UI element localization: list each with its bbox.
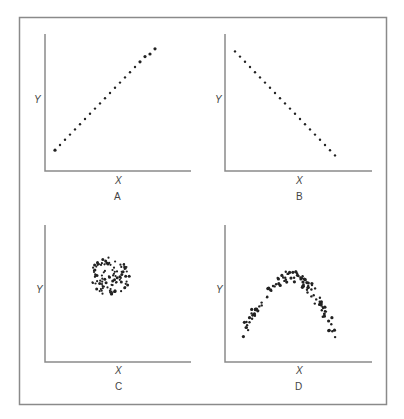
data-point	[325, 310, 327, 312]
data-point	[327, 319, 330, 322]
data-point	[301, 286, 304, 289]
data-point	[103, 271, 105, 273]
data-point	[93, 263, 96, 266]
data-point	[258, 305, 260, 307]
panel-c-ylabel: Y	[36, 284, 44, 295]
data-point	[294, 113, 296, 115]
data-point	[330, 323, 332, 325]
data-point	[107, 257, 109, 259]
scatterplot-figure: Y X A Y X B Y X C Y X D	[0, 0, 404, 419]
data-point	[134, 66, 136, 68]
data-point	[328, 329, 331, 332]
data-point	[89, 113, 91, 115]
panel-a-axes	[45, 34, 191, 171]
data-point	[302, 283, 304, 285]
panel-c-points	[91, 257, 130, 296]
data-point	[111, 269, 113, 271]
data-point	[124, 275, 127, 278]
figure-frame	[20, 18, 387, 405]
data-point	[120, 280, 123, 283]
data-point	[247, 329, 249, 331]
data-point	[323, 313, 325, 315]
data-point	[101, 278, 103, 280]
data-point	[101, 281, 103, 283]
data-point	[92, 267, 94, 269]
data-point	[334, 154, 336, 156]
panel-d-ylabel: Y	[216, 284, 224, 295]
data-point	[106, 286, 108, 288]
data-point	[291, 271, 294, 274]
data-point	[94, 276, 96, 278]
panel-b-axes	[225, 34, 372, 171]
data-point	[98, 263, 100, 265]
panel-c: Y X C	[36, 225, 191, 392]
data-point	[94, 107, 96, 109]
data-point	[329, 149, 331, 151]
data-point	[91, 281, 93, 283]
data-point	[105, 281, 108, 284]
data-point	[274, 92, 276, 94]
panel-d-points	[242, 270, 337, 338]
data-point	[306, 289, 308, 291]
data-point	[138, 60, 141, 63]
panel-c-xlabel: X	[114, 365, 122, 376]
panel-d-xlabel: X	[295, 365, 303, 376]
data-point	[309, 128, 311, 130]
data-point	[120, 277, 122, 279]
data-point	[112, 274, 114, 276]
data-point	[103, 278, 106, 281]
data-point	[272, 285, 274, 287]
data-point	[64, 139, 66, 141]
data-point	[119, 279, 121, 281]
panel-d-axes	[225, 225, 372, 362]
data-point	[99, 290, 101, 292]
data-point	[101, 274, 103, 276]
data-point	[114, 87, 116, 89]
data-point	[249, 66, 251, 68]
data-point	[116, 270, 118, 272]
data-point	[322, 306, 324, 308]
data-point	[284, 277, 286, 279]
data-point	[313, 294, 315, 296]
data-point	[296, 274, 299, 277]
data-point	[101, 293, 103, 295]
data-point	[96, 280, 98, 282]
data-point	[104, 97, 106, 99]
data-point	[129, 71, 131, 73]
data-point	[103, 263, 105, 265]
data-point	[248, 321, 250, 323]
data-point	[304, 123, 306, 125]
data-point	[99, 102, 101, 104]
panel-c-label: C	[115, 381, 122, 392]
data-point	[279, 97, 281, 99]
data-point	[254, 308, 257, 311]
data-point	[234, 50, 236, 52]
data-point	[53, 149, 56, 152]
data-point	[334, 336, 336, 338]
data-point	[287, 273, 289, 275]
data-point	[123, 264, 125, 266]
data-point	[295, 271, 297, 273]
data-point	[114, 275, 116, 277]
data-point	[260, 301, 262, 303]
data-point	[148, 52, 151, 55]
data-point	[98, 282, 101, 285]
data-point	[112, 284, 114, 286]
data-point	[320, 300, 323, 303]
data-point	[253, 313, 255, 315]
data-point	[243, 321, 246, 324]
data-point	[101, 262, 103, 264]
data-point	[315, 298, 317, 300]
data-point	[310, 295, 312, 297]
data-point	[248, 316, 251, 319]
data-point	[120, 273, 123, 276]
data-point	[107, 263, 110, 266]
data-point	[239, 55, 241, 57]
data-point	[114, 271, 116, 273]
data-point	[120, 266, 122, 268]
data-point	[264, 81, 266, 83]
data-point	[301, 280, 304, 283]
data-point	[299, 118, 301, 120]
data-point	[269, 87, 271, 89]
data-point	[93, 269, 96, 272]
